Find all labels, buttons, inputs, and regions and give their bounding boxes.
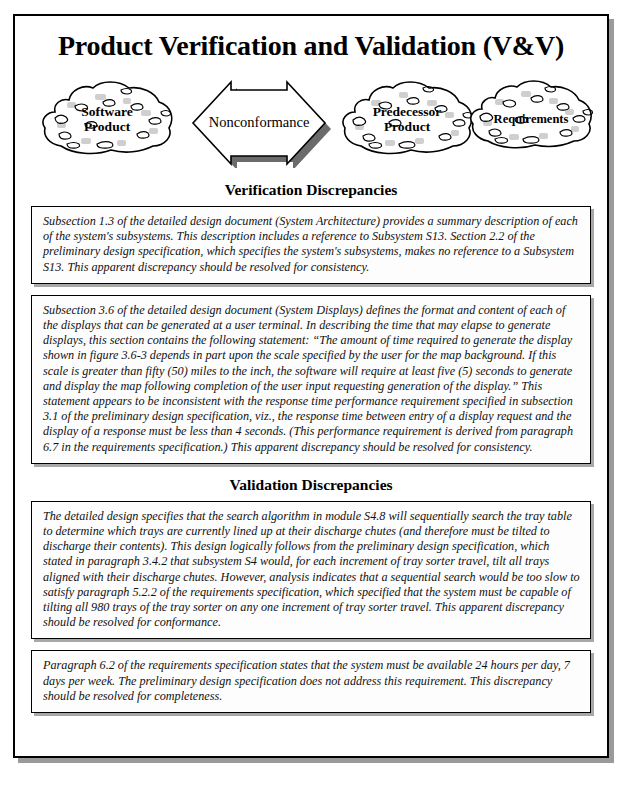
section-heading-validation: Validation Discrepancies bbox=[15, 476, 607, 494]
discrepancy-box: Subsection 1.3 of the detailed design do… bbox=[31, 206, 591, 284]
page-title: Product Verification and Validation (V&V… bbox=[15, 30, 607, 62]
discrepancy-text: The detailed design specifies that the s… bbox=[43, 509, 580, 631]
discrepancy-box: Subsection 3.6 of the detailed design do… bbox=[31, 295, 591, 464]
discrepancy-text: Subsection 3.6 of the detailed design do… bbox=[43, 303, 580, 455]
vv-diagram: Software Product Nonconformance bbox=[15, 76, 607, 181]
diagram-node-requirements[interactable]: Requirements bbox=[465, 76, 597, 162]
page-frame: Product Verification and Validation (V&V… bbox=[13, 14, 609, 758]
section-heading-verification: Verification Discrepancies bbox=[15, 181, 607, 199]
double-headed-arrow-icon bbox=[183, 78, 335, 168]
rock-cloud-icon bbox=[337, 76, 477, 162]
discrepancy-box: Paragraph 6.2 of the requirements specif… bbox=[31, 650, 591, 713]
diagram-connector-nonconformance[interactable]: Nonconformance bbox=[183, 78, 335, 168]
discrepancy-box: The detailed design specifies that the s… bbox=[31, 501, 591, 640]
diagram-node-software-product[interactable]: Software Product bbox=[37, 76, 177, 162]
diagram-node-predecessor-product[interactable]: Predecessor Product bbox=[337, 76, 477, 162]
discrepancy-text: Subsection 1.3 of the detailed design do… bbox=[43, 214, 580, 275]
rock-cloud-icon bbox=[37, 76, 177, 162]
discrepancy-text: Paragraph 6.2 of the requirements specif… bbox=[43, 658, 580, 704]
rock-cloud-icon bbox=[465, 76, 597, 156]
